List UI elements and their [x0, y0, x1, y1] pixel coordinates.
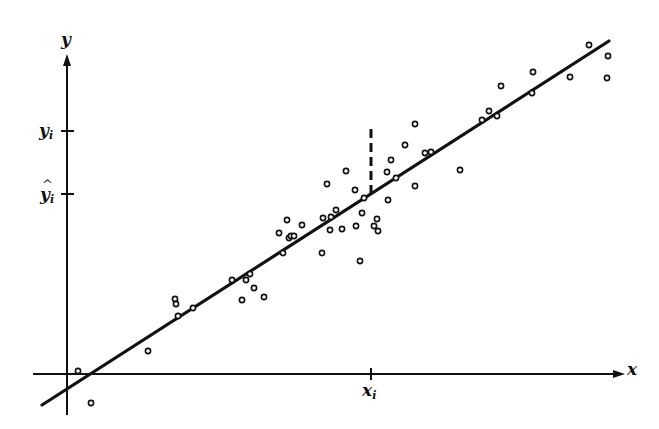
- data-point: [328, 214, 333, 219]
- data-point: [359, 210, 364, 215]
- data-point: [173, 301, 178, 306]
- data-point: [175, 313, 180, 318]
- data-point: [586, 42, 591, 47]
- data-point: [530, 69, 535, 74]
- data-point: [343, 168, 348, 173]
- data-point: [498, 83, 503, 88]
- data-point: [243, 277, 248, 282]
- xi-label-sub: i: [372, 389, 376, 402]
- data-point: [145, 348, 150, 353]
- data-point: [339, 226, 344, 231]
- data-point: [357, 258, 362, 263]
- y-axis-label: y: [61, 31, 71, 48]
- data-points: [75, 42, 610, 405]
- regression-diagram: [0, 0, 659, 429]
- data-point: [486, 108, 491, 113]
- data-point: [239, 297, 244, 302]
- xi-label-main: x: [362, 380, 372, 400]
- data-point: [374, 216, 379, 221]
- data-point: [457, 167, 462, 172]
- data-point: [353, 223, 358, 228]
- data-point: [299, 222, 304, 227]
- yi-label-sub: i: [49, 129, 53, 142]
- data-point: [327, 227, 332, 232]
- x-axis-arrow-icon: [613, 370, 625, 378]
- x-axis-label: x: [627, 361, 637, 378]
- data-point: [319, 250, 324, 255]
- data-point: [529, 90, 534, 95]
- data-point: [385, 197, 390, 202]
- data-point: [88, 400, 93, 405]
- data-point: [384, 169, 389, 174]
- data-point: [247, 271, 252, 276]
- yhat-label-main: y: [40, 184, 50, 204]
- data-point: [494, 113, 499, 118]
- data-point: [280, 250, 285, 255]
- y-axis: [61, 54, 74, 415]
- data-point: [229, 277, 234, 282]
- data-point: [604, 75, 609, 80]
- data-point: [375, 228, 380, 233]
- xi-label: xi: [362, 382, 376, 401]
- data-point: [75, 368, 80, 373]
- data-point: [324, 181, 329, 186]
- data-point: [320, 215, 325, 220]
- data-point: [388, 157, 393, 162]
- data-point: [361, 195, 366, 200]
- data-point: [352, 187, 357, 192]
- data-point: [605, 53, 610, 58]
- yhat-label: yi: [40, 186, 54, 205]
- data-point: [567, 74, 572, 79]
- data-point: [412, 121, 417, 126]
- data-point: [291, 233, 296, 238]
- data-point: [284, 217, 289, 222]
- data-point: [428, 149, 433, 154]
- data-point: [276, 230, 281, 235]
- regression-line: [42, 41, 609, 405]
- data-point: [261, 294, 266, 299]
- data-point: [422, 150, 427, 155]
- data-point: [371, 223, 376, 228]
- y-axis-arrow-icon: [63, 54, 71, 66]
- data-point: [393, 175, 398, 180]
- data-point: [333, 207, 338, 212]
- data-point: [412, 183, 417, 188]
- x-axis: [33, 368, 625, 380]
- yhat-label-sub: i: [50, 193, 54, 206]
- yi-label-main: y: [39, 120, 49, 140]
- data-point: [402, 142, 407, 147]
- data-point: [479, 117, 484, 122]
- yi-label: yi: [39, 122, 53, 141]
- data-point: [190, 305, 195, 310]
- data-point: [251, 285, 256, 290]
